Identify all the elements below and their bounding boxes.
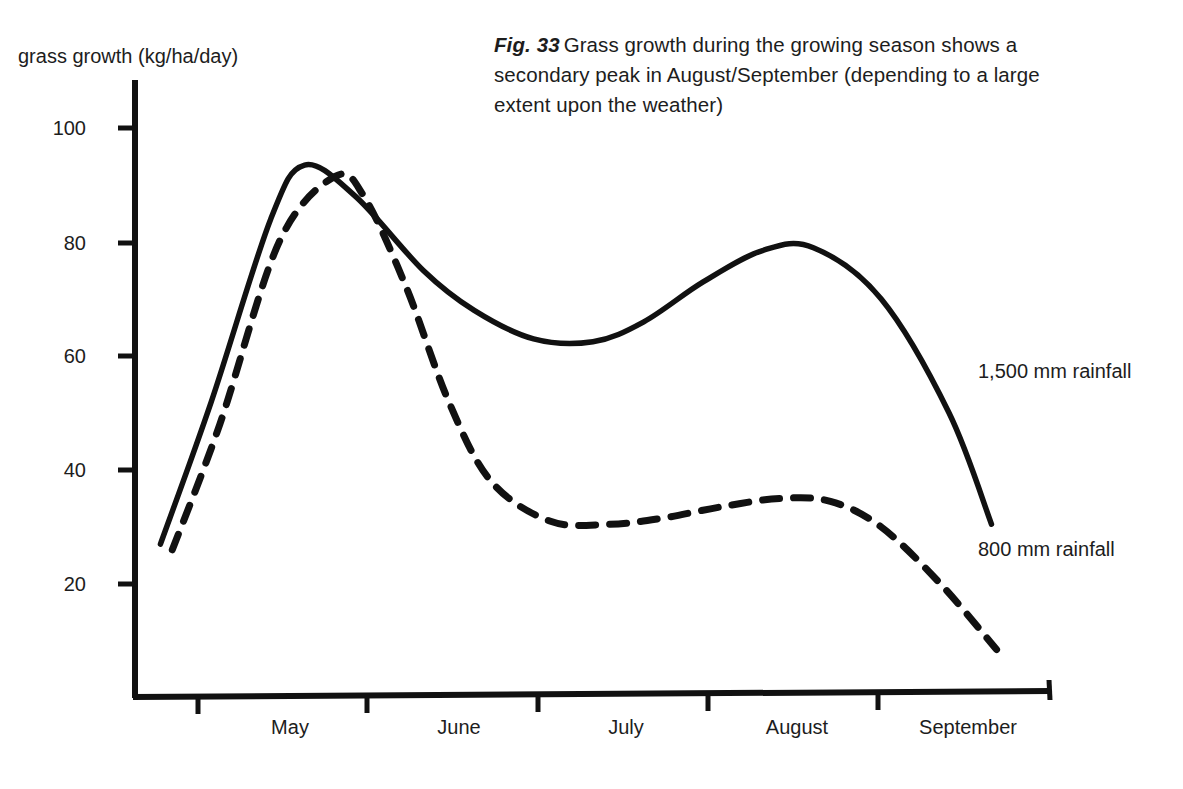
series-line-1500mm-rainfall xyxy=(160,165,991,545)
figure-container: Fig. 33Grass growth during the growing s… xyxy=(0,0,1183,789)
series-line-800mm-rainfall xyxy=(172,174,996,650)
x-axis-line xyxy=(133,691,1050,697)
axis-lines xyxy=(133,80,1050,700)
x-axis-end-cap xyxy=(1049,680,1050,700)
line-chart-plot xyxy=(0,0,1183,789)
